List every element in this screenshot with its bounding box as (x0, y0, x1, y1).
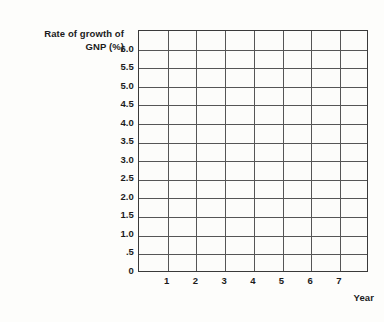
x-tick-label: 6 (301, 276, 319, 286)
y-tick-label: 6.0 (100, 44, 134, 54)
y-tick-label: 1.0 (100, 229, 134, 239)
gridline-vertical (168, 31, 169, 271)
y-tick-label: 1.5 (100, 210, 134, 220)
gridline-vertical (311, 31, 312, 271)
y-tick-label: 2.0 (100, 192, 134, 202)
gridline-vertical (283, 31, 284, 271)
y-tick-label: 3.0 (100, 155, 134, 165)
gridline-vertical (340, 31, 341, 271)
gridline-vertical (196, 31, 197, 271)
y-tick-label: 0 (100, 266, 134, 276)
x-tick-label: 5 (273, 276, 291, 286)
chart-figure: Rate of growth of GNP (%) 6.0 5.5 5.0 4.… (0, 0, 384, 322)
x-tick-label: 4 (244, 276, 262, 286)
x-axis-title: Year (330, 292, 374, 303)
gridline-vertical (225, 31, 226, 271)
y-axis-title-line-1: Rate of growth of (12, 28, 124, 41)
y-tick-label: 4.5 (100, 99, 134, 109)
x-tick-label: 3 (215, 276, 233, 286)
x-tick-label: 7 (330, 276, 348, 286)
y-tick-label: 2.5 (100, 173, 134, 183)
gridline-vertical (254, 31, 255, 271)
y-tick-label: .5 (100, 247, 134, 257)
y-tick-label: 5.0 (100, 81, 134, 91)
x-tick-label: 1 (158, 276, 176, 286)
plot-area (138, 30, 368, 272)
y-tick-label: 4.0 (100, 118, 134, 128)
y-tick-label: 3.5 (100, 136, 134, 146)
y-tick-label: 5.5 (100, 62, 134, 72)
x-tick-label: 2 (186, 276, 204, 286)
